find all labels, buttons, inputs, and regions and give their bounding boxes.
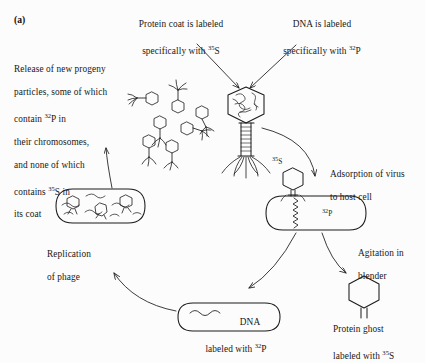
dna-capsule-line1: DNA [240,317,260,327]
label-s35-element: S [278,157,282,166]
callout-protein-coat: Protein coat is labeled specifically wit… [122,8,240,58]
stage-label-protein-ghost: Protein ghost labeled with 35S [333,313,425,363]
label-p32-element: P [328,209,332,218]
replication-line1: Replication [47,249,91,259]
panel-label: (a) [14,14,25,25]
agitation-line1: Agitation in [358,248,404,258]
callout-dna-line1: DNA is labeled [293,19,352,29]
isotope-s35-element-ghost: S [389,351,394,361]
label-s35-phage-head: 35S [272,155,282,166]
progeny-phage [164,140,178,170]
arrow-to-dna-capsule [249,233,296,288]
ghost-line2: labeled with [333,351,382,361]
replication-line2: of phage [47,272,80,282]
stage-label-adsorption: Adsorption of virus to host cell [330,158,425,204]
stage-label-agitation: Agitation in blender [358,237,425,283]
arrow-adsorption [262,128,315,176]
label-p32-injected-dna: 32P [322,207,332,218]
main-phage [222,87,270,178]
arrow-to-protein-ghost [322,233,346,273]
label-dna-capsule: DNA labeled with 32P [196,306,276,356]
dna-capsule-line2: labeled with [205,344,254,354]
progeny-phage [169,80,187,113]
release-line4: their chromosomes, [14,137,89,147]
isotope-s35-sup: 35 [208,44,215,51]
adsorption-line2: to host cell [330,192,372,202]
isotope-s35-element: S [215,46,220,56]
release-line6: contains [14,187,48,197]
isotope-p32-sup: 32 [349,44,356,51]
isotope-p32-element-capsule: P [261,344,266,354]
release-line2: particles, some of which [14,87,107,97]
callout-protein-coat-line1: Protein coat is labeled [139,19,224,29]
progeny-phage [152,116,166,147]
release-line3-suffix: in [56,114,66,124]
release-line1: Release of new progeny [14,64,106,74]
release-line3: contain [14,114,45,124]
stage-label-replication: Replication of phage [47,238,129,284]
isotope-s35-sup-ghost: 35 [382,349,389,356]
agitation-line2: blender [358,271,387,281]
adsorption-line1: Adsorption of virus [330,169,405,179]
release-line5: and none of which [14,160,85,170]
release-of-progeny-text: Release of new progeny particles, some o… [14,53,149,221]
callout-dna-line2: specifically with [283,46,349,56]
progeny-phage [181,122,211,140]
progeny-phage [196,106,214,136]
release-line6-suffix: in [60,187,70,197]
callout-protein-coat-line2: specifically with [142,46,208,56]
isotope-s35-sup-release: 35 [48,185,55,192]
release-line7: its coat [14,209,41,219]
ghost-line1: Protein ghost [333,324,384,334]
isotope-p32-element: P [356,46,361,56]
callout-dna: DNA is labeled specifically with 32P [262,8,382,58]
